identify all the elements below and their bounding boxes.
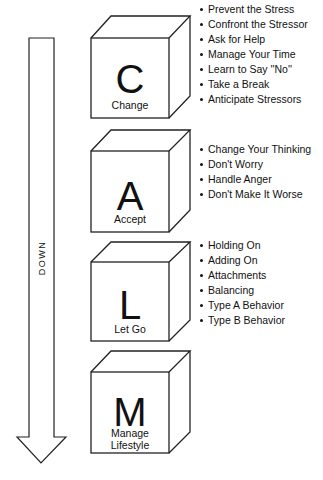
cube-letter-a: A: [91, 176, 169, 216]
cube-caption-change: Change: [91, 99, 169, 111]
list-item: Handle Anger: [199, 172, 311, 187]
change-list: Prevent the Stress Confront the Stressor…: [199, 2, 308, 107]
list-item: Balancing: [199, 283, 285, 298]
list-item: Confront the Stressor: [199, 17, 308, 32]
cube-caption-lifestyle: Lifestyle: [91, 439, 169, 451]
list-item: Holding On: [199, 238, 285, 253]
list-item: Anticipate Stressors: [199, 92, 308, 107]
cube-caption-manage: Manage: [91, 427, 169, 439]
list-item: Don't Make It Worse: [199, 187, 311, 202]
list-item: Learn to Say ''No'': [199, 62, 308, 77]
list-item: Type B Behavior: [199, 313, 285, 328]
cube-caption-accept: Accept: [91, 213, 169, 225]
cube-letter-m: M: [91, 392, 169, 432]
list-item: Prevent the Stress: [199, 2, 308, 17]
list-item: Adding On: [199, 253, 285, 268]
list-item: Manage Your Time: [199, 47, 308, 62]
accept-list: Change Your Thinking Don't Worry Handle …: [199, 142, 311, 202]
list-item: Ask for Help: [199, 32, 308, 47]
list-item: Type A Behavior: [199, 298, 285, 313]
cube-letter-l: L: [91, 285, 169, 325]
cube-caption-let-go: Let Go: [91, 323, 169, 335]
let-go-list: Holding On Adding On Attachments Balanci…: [199, 238, 285, 328]
list-item: Change Your Thinking: [199, 142, 311, 157]
list-item: Attachments: [199, 268, 285, 283]
list-item: Don't Worry: [199, 157, 311, 172]
list-item: Take a Break: [199, 77, 308, 92]
arrow-label: DOWN: [37, 241, 47, 276]
cube-letter-c: C: [91, 59, 169, 99]
